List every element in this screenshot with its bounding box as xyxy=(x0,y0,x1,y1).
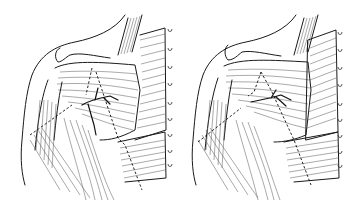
panel-left xyxy=(0,0,176,205)
shoulder-muscle-illustration-left xyxy=(0,0,176,205)
suture-hooks xyxy=(168,29,172,167)
anatomical-figure xyxy=(0,0,353,205)
shoulder-muscle-illustration-right xyxy=(176,0,353,205)
panel-right xyxy=(176,0,352,205)
